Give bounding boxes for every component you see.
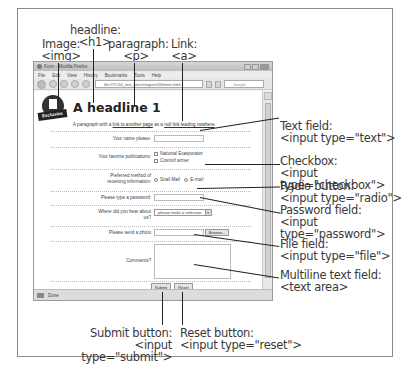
callout-link: Link: <a>: [167, 38, 201, 62]
callout-radio: Radio button: <input type="radio">: [280, 180, 402, 204]
callout-reset: Reset button: <input type="reset">: [180, 327, 302, 351]
radio-group: Snail Mail E-mail: [154, 177, 203, 182]
leader-line: [182, 63, 183, 121]
password-label: Please type a password:: [101, 195, 151, 201]
browser-window: Form - Mozilla Firefox File Edit View Hi…: [33, 61, 273, 301]
status-icon: [37, 293, 44, 298]
callout-tag: <input type="file">: [280, 250, 390, 262]
paragraph: A paragraph with a link to another page …: [73, 122, 216, 127]
stop-button[interactable]: [71, 80, 79, 88]
checkbox-label: Cosmof armer: [160, 158, 189, 163]
back-button[interactable]: [37, 80, 46, 89]
logo-banner: Exclusive: [38, 109, 68, 121]
menu-history[interactable]: History: [84, 73, 98, 78]
chevron-down-icon[interactable]: ▼: [205, 210, 211, 215]
callout-tag: <input type="submit">: [60, 339, 172, 363]
password-field[interactable]: [154, 194, 204, 201]
row-hear-about: Where did you hear about us? -please mak…: [51, 205, 251, 225]
checkbox-national-exasperator[interactable]: National Exasperator: [154, 151, 203, 156]
photo-label: Please send a photo: [109, 230, 151, 236]
minimize-button[interactable]: [244, 64, 251, 70]
callout-file: File field: <input type="file">: [280, 238, 390, 262]
row-comments: Comments?: [51, 241, 251, 279]
menu-help[interactable]: Help: [152, 73, 161, 78]
page-headline: A headline 1: [73, 100, 161, 115]
leader-line: [93, 49, 94, 103]
firefox-icon: [37, 64, 42, 69]
home-button[interactable]: [82, 80, 90, 88]
menu-tools[interactable]: Tools: [134, 73, 145, 78]
radio-label: Snail Mail: [160, 177, 180, 182]
publications-label: Your favorite publications:: [99, 154, 151, 160]
radio-snail-mail[interactable]: [154, 178, 158, 182]
scroll-up-arrow[interactable]: [264, 92, 272, 100]
menu-bookmarks[interactable]: Bookmarks: [105, 73, 128, 78]
menu-view[interactable]: View: [67, 73, 77, 78]
hear-select[interactable]: -please make a selection- ▼: [154, 209, 212, 216]
hear-label: Where did you hear about us?: [98, 209, 151, 221]
callout-tag: <input type="reset">: [180, 339, 302, 351]
checkbox[interactable]: [154, 159, 158, 163]
radio-label: E-mail: [190, 177, 203, 182]
callout-tag: <text area>: [280, 281, 381, 293]
title-bar: Form - Mozilla Firefox: [34, 62, 272, 71]
status-text: Done: [48, 293, 59, 298]
link-another-page[interactable]: link to another page: [113, 122, 153, 127]
callout-paragraph: paragraph: <p>: [108, 38, 164, 62]
method-label: Preferred method of receiving informatio…: [107, 173, 151, 185]
link-null[interactable]: null link leading nowhere: [164, 122, 214, 127]
callout-password: Password field: <input type="password">: [280, 204, 403, 240]
url-dropdown-button[interactable]: [206, 81, 212, 88]
radio-email[interactable]: [184, 178, 188, 182]
window-title: Form - Mozilla Firefox: [44, 64, 88, 69]
name-text-field[interactable]: [154, 135, 204, 142]
checkbox[interactable]: [154, 152, 158, 156]
callout-tag: <input type="text">: [280, 132, 395, 144]
label-line: us?: [98, 215, 151, 221]
para-text: as a: [153, 122, 164, 127]
exclusive-logo-image: Exclusive: [38, 95, 66, 125]
name-label: Your name please:: [113, 136, 151, 142]
logo-glyph: [49, 99, 57, 109]
navigation-bar: file:///Y:/04_test_sites/chapter03/forms…: [34, 79, 272, 90]
reload-button[interactable]: [60, 80, 68, 88]
leader-line: [58, 63, 59, 101]
status-bar: Done: [34, 289, 272, 300]
search-input[interactable]: Google: [224, 80, 264, 88]
menu-file[interactable]: File: [38, 73, 45, 78]
leader-line: [182, 292, 183, 325]
para-text: A paragraph with a: [73, 122, 113, 127]
select-value: -please make a selection-: [157, 210, 203, 215]
leader-line: [134, 63, 135, 106]
comments-textarea[interactable]: [154, 244, 231, 279]
menu-bar: File Edit View History Bookmarks Tools H…: [34, 71, 272, 79]
row-name: Your name please:: [51, 131, 251, 145]
checkbox-cosmofarmer[interactable]: Cosmof armer: [154, 158, 189, 163]
maximize-button[interactable]: [252, 64, 259, 70]
leader-line: [162, 292, 163, 325]
leader-line: [205, 164, 280, 165]
url-bar[interactable]: file:///Y:/04_test_sites/chapter03/forms…: [95, 80, 203, 88]
checkbox-label: National Exasperator: [160, 151, 203, 156]
para-text: .: [215, 122, 216, 127]
callout-textarea: Multiline text field: <text area>: [280, 269, 381, 293]
comments-label: Comments?: [126, 258, 151, 264]
label-line: receiving information:: [107, 179, 151, 185]
scroll-thumb[interactable]: [265, 103, 271, 278]
browse-button[interactable]: Browse...: [205, 229, 229, 236]
page-content: Exclusive A headline 1 A paragraph with …: [34, 91, 263, 291]
vertical-scrollbar[interactable]: [262, 91, 272, 291]
row-method: Preferred method of receiving informatio…: [51, 169, 251, 189]
go-button[interactable]: [215, 81, 221, 88]
forward-button[interactable]: [49, 80, 57, 88]
close-button[interactable]: [260, 64, 269, 70]
callout-submit: Submit button: <input type="submit">: [60, 327, 172, 363]
callout-text-field: Text field: <input type="text">: [280, 120, 395, 144]
